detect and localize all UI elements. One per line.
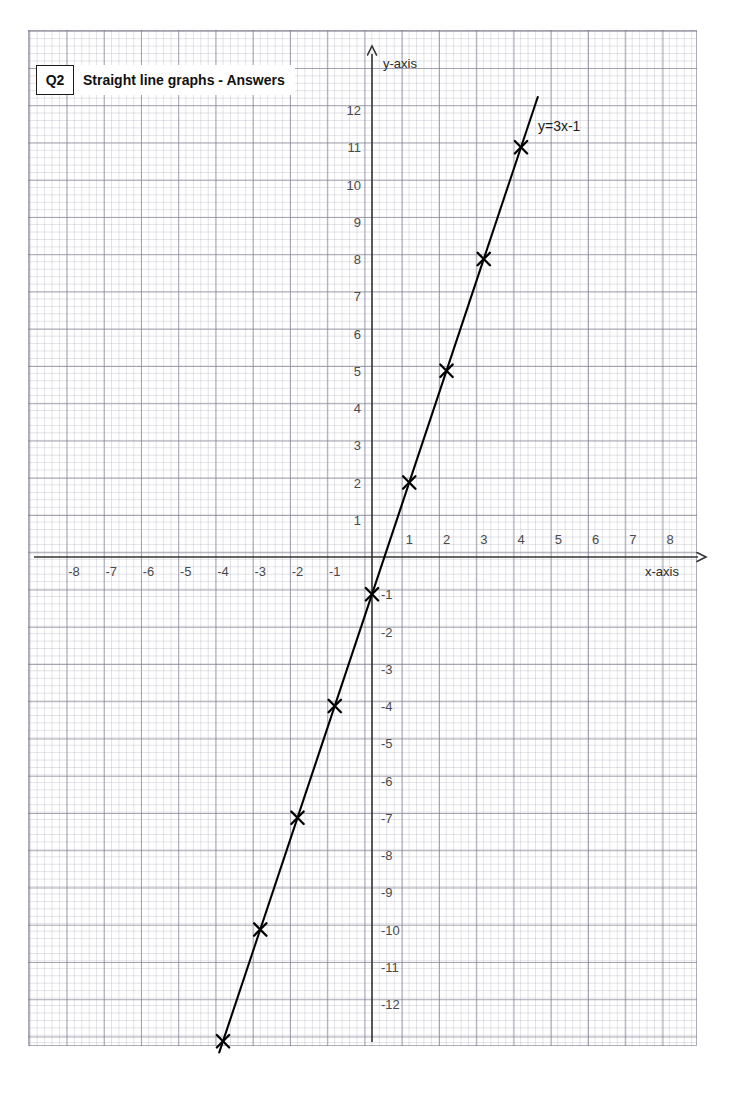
x-tick-label: -1	[329, 564, 341, 579]
y-tick-label: -6	[381, 774, 393, 789]
x-tick-label: 5	[555, 532, 562, 547]
graph-plot: -8-7-6-5-4-3-2-112345678121110987654321-…	[0, 0, 732, 1102]
y-tick-label: -2	[381, 625, 393, 640]
x-axis-label: x-axis	[645, 564, 679, 579]
y-tick-label: -3	[381, 662, 393, 677]
y-tick-label: 6	[354, 327, 361, 342]
y-tick-label: -10	[381, 923, 400, 938]
y-tick-label: 10	[347, 178, 361, 193]
y-tick-label: 1	[354, 513, 361, 528]
y-tick-label: 8	[354, 252, 361, 267]
x-tick-label: -7	[105, 564, 117, 579]
y-tick-label: 11	[348, 140, 362, 155]
question-title-box: Q2 Straight line graphs - Answers	[36, 65, 295, 95]
data-point-cross-marker	[254, 923, 266, 935]
data-point-cross-marker	[515, 141, 527, 153]
data-point-cross-marker	[478, 253, 490, 265]
y-tick-label: 4	[354, 401, 361, 416]
worksheet-page: Q2 Straight line graphs - Answers -8-7-6…	[0, 0, 732, 1102]
page-title: Straight line graphs - Answers	[74, 65, 295, 95]
y-tick-label: 3	[354, 438, 361, 453]
line-equation-label: y=3x-1	[538, 118, 581, 134]
y-tick-label: -5	[381, 736, 393, 751]
y-axis-label: y-axis	[383, 56, 417, 71]
y-tick-label: -11	[381, 960, 399, 975]
y-tick-label: 7	[354, 289, 361, 304]
x-tick-label: -6	[143, 564, 155, 579]
y-tick-label: -1	[381, 587, 393, 602]
y-tick-label: -8	[381, 848, 393, 863]
y-tick-label: 9	[354, 215, 361, 230]
data-point-cross-marker	[217, 1035, 229, 1047]
y-tick-label: -4	[381, 699, 393, 714]
data-point-cross-marker	[329, 700, 341, 712]
y-tick-label: -7	[381, 811, 393, 826]
x-tick-label: -2	[292, 564, 304, 579]
data-point-cross-marker	[440, 365, 452, 377]
x-tick-label: 3	[480, 532, 487, 547]
question-number: Q2	[36, 65, 74, 95]
x-tick-label: 7	[629, 532, 636, 547]
y-tick-label: -9	[381, 885, 393, 900]
x-tick-label: 1	[406, 532, 413, 547]
x-tick-label: -4	[217, 564, 229, 579]
x-tick-label: 4	[517, 532, 524, 547]
x-tick-label: 2	[443, 532, 450, 547]
y-tick-label: 5	[354, 364, 361, 379]
x-tick-label: 8	[666, 532, 673, 547]
plotted-line	[219, 97, 537, 1052]
data-point-cross-marker	[403, 476, 415, 488]
x-tick-label: -5	[180, 564, 192, 579]
x-tick-label: 6	[592, 532, 599, 547]
x-tick-label: -3	[254, 564, 266, 579]
y-tick-label: -12	[381, 997, 400, 1012]
y-tick-label: 2	[354, 476, 361, 491]
axes	[34, 54, 698, 1042]
data-point-cross-marker	[291, 812, 303, 824]
x-tick-label: -8	[68, 564, 80, 579]
y-tick-label: 12	[347, 103, 361, 118]
